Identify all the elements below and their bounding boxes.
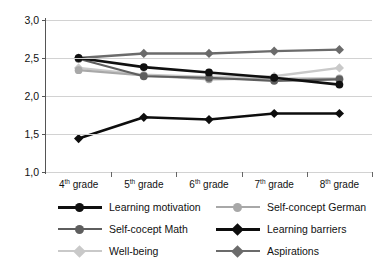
y-axis-tick-label: 1,0 <box>24 167 39 177</box>
legend-swatch <box>58 244 102 258</box>
x-axis-tick-label: 8th grade <box>320 176 359 191</box>
legend-item[interactable]: Learning motivation <box>58 196 201 218</box>
y-axis-tick-label: 3,0 <box>24 15 39 25</box>
legend-label: Learning motivation <box>109 201 201 213</box>
plot-area: 3,02,52,01,51,0 4th grade5th grade6th gr… <box>0 0 388 190</box>
gridline <box>46 58 372 59</box>
gridline <box>46 134 372 135</box>
x-axis-tick-label: 5th grade <box>124 176 163 191</box>
gridline <box>46 172 372 173</box>
legend-circle-marker-icon <box>75 225 84 234</box>
data-point <box>139 49 148 58</box>
data-point <box>139 113 148 122</box>
data-point <box>204 49 213 58</box>
gridline <box>46 96 372 97</box>
legend-column-right: Self-concept GermanLearning barriersAspi… <box>216 196 366 262</box>
legend-swatch <box>58 222 102 236</box>
x-axis-tick <box>372 172 373 177</box>
data-point <box>335 45 344 54</box>
x-axis-tick-label: 6th grade <box>189 176 228 191</box>
y-axis-tick-label: 1,5 <box>24 129 39 139</box>
y-axis-tick <box>42 20 46 21</box>
data-point <box>75 66 83 74</box>
data-point <box>140 63 148 71</box>
legend-item[interactable]: Self-cocept Math <box>58 218 201 240</box>
series-learning-barriers <box>74 109 344 143</box>
x-axis-tick <box>111 172 112 177</box>
gridline <box>46 20 372 21</box>
legend-diamond-marker-icon <box>231 245 244 258</box>
legend-label: Self-cocept Math <box>109 223 188 235</box>
line-chart: 3,02,52,01,51,0 4th grade5th grade6th gr… <box>0 0 388 264</box>
data-point <box>336 81 344 89</box>
data-point <box>270 109 279 118</box>
x-axis-tick-label: 4th grade <box>59 176 98 191</box>
y-axis-tick <box>42 172 46 173</box>
y-axis-tick <box>42 58 46 59</box>
legend-item[interactable]: Learning barriers <box>216 218 366 240</box>
legend-label: Well-being <box>109 245 158 257</box>
y-axis-tick <box>42 96 46 97</box>
x-axis-tick-label: 7th grade <box>255 176 294 191</box>
legend-label: Learning barriers <box>267 223 346 235</box>
legend-swatch <box>216 222 260 236</box>
data-point <box>335 63 344 72</box>
data-point <box>74 134 83 143</box>
legend-diamond-marker-icon <box>73 245 86 258</box>
x-axis-tick <box>307 172 308 177</box>
legend-item[interactable]: Self-concept German <box>216 196 366 218</box>
data-point <box>205 69 213 77</box>
y-axis-tick <box>42 134 46 135</box>
data-point <box>335 109 344 118</box>
legend-label: Self-concept German <box>267 201 366 213</box>
series-aspirations <box>74 45 344 63</box>
legend-circle-marker-icon <box>233 203 242 212</box>
data-point <box>270 47 279 56</box>
legend-label: Aspirations <box>267 245 319 257</box>
legend-circle-marker-icon <box>75 203 84 212</box>
legend-swatch <box>216 200 260 214</box>
legend-item[interactable]: Aspirations <box>216 240 366 262</box>
data-point <box>140 72 148 80</box>
data-point <box>204 115 213 124</box>
chart-legend: Learning motivationSelf-cocept MathWell-… <box>0 196 388 264</box>
legend-swatch <box>216 244 260 258</box>
legend-column-left: Learning motivationSelf-cocept MathWell-… <box>58 196 201 262</box>
x-axis-labels: 4th grade5th grade6th grade7th grade8th … <box>46 176 372 192</box>
legend-diamond-marker-icon <box>231 223 244 236</box>
y-axis-tick-label: 2,5 <box>24 53 39 63</box>
x-axis-tick <box>176 172 177 177</box>
legend-swatch <box>58 200 102 214</box>
y-axis-labels: 3,02,52,01,51,0 <box>0 0 44 190</box>
plot-canvas <box>46 20 372 172</box>
y-axis-tick-label: 2,0 <box>24 91 39 101</box>
legend-item[interactable]: Well-being <box>58 240 201 262</box>
data-point <box>270 74 278 82</box>
x-axis-tick <box>242 172 243 177</box>
